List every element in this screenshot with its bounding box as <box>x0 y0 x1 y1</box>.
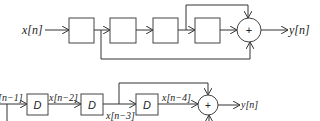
d-box-1-label: D <box>34 99 42 111</box>
signal-x-n-4: x[n−4] <box>161 92 191 103</box>
d-box-3-label: D <box>143 99 151 111</box>
block-diagram: x[n] + y[n] [n−1] D x[n−2] D x[n−3] <box>0 0 320 121</box>
adder-plus-icon: + <box>246 24 252 36</box>
top-output-label: y[n] <box>288 23 310 37</box>
top-diagram: x[n] + y[n] <box>21 5 310 59</box>
bottom-diagram: [n−1] D x[n−2] D x[n−3] D x[n−4] + y[n] <box>0 83 258 121</box>
bottom-input-label: [n−1] <box>0 92 23 103</box>
delay-box-3 <box>153 18 178 43</box>
top-input-label: x[n] <box>21 23 43 37</box>
signal-x-n-2: x[n−2] <box>48 92 78 103</box>
bottom-adder-plus-icon: + <box>205 100 211 111</box>
signal-x-n-3: x[n−3] <box>105 110 135 121</box>
delay-box-1 <box>69 18 94 43</box>
bottom-output-label: y[n] <box>240 99 258 110</box>
d-box-2-label: D <box>88 99 96 111</box>
delay-box-2 <box>110 18 136 43</box>
delay-box-4 <box>195 18 220 43</box>
